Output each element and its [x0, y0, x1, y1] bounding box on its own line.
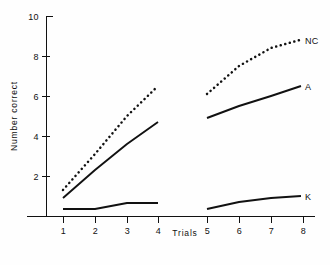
series-group-right-panel [207, 40, 301, 209]
series-a-right-segment [207, 86, 301, 118]
y-tick-label-2: 2 [34, 172, 39, 182]
y-tick-label-10: 10 [28, 12, 39, 22]
series-group-left-panel [63, 86, 158, 209]
series-label-a: A [305, 82, 311, 92]
series-a-left-segment [63, 122, 158, 198]
line-chart-canvas: 10 8 6 4 2 Number correct 1 2 3 4 5 6 7 [0, 0, 330, 265]
x-tick-label-5: 5 [205, 226, 210, 236]
x-tick-label-6: 6 [237, 226, 242, 236]
series-k-left-segment [63, 203, 158, 209]
series-nc-left-segment [63, 86, 158, 190]
y-axis: 10 8 6 4 2 Number correct [9, 12, 53, 217]
series-k-right-segment [207, 196, 301, 209]
series-label-k: K [305, 192, 311, 202]
y-axis-title: Number correct [9, 81, 19, 151]
series-label-nc: NC [305, 36, 319, 46]
x-tick-label-4: 4 [156, 226, 161, 236]
y-tick-label-6: 6 [34, 92, 39, 102]
y-tick-label-4: 4 [34, 132, 39, 142]
x-tick-label-1: 1 [61, 226, 66, 236]
x-tick-label-3: 3 [125, 226, 130, 236]
x-axis-title: Trials [172, 228, 197, 238]
x-tick-label-2: 2 [93, 226, 98, 236]
y-tick-label-8: 8 [34, 52, 39, 62]
x-tick-label-7: 7 [269, 226, 274, 236]
series-labels: NC A K [305, 36, 319, 202]
x-axis: 1 2 3 4 5 6 7 8 Trials [27, 216, 315, 238]
chart-figure: 10 8 6 4 2 Number correct 1 2 3 4 5 6 7 [0, 0, 330, 265]
x-tick-label-8: 8 [301, 226, 306, 236]
series-nc-right-segment [207, 40, 300, 94]
